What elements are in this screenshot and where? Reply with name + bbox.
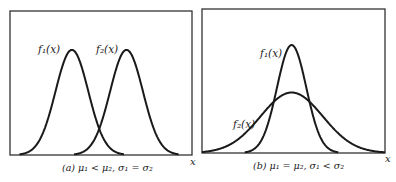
caption-b: (b) μ₁ = μ₂, σ₁ < σ₂: [253, 161, 344, 171]
panel-b: f₁(x) f₂(x) x (b) μ₁ = μ₂, σ₁ < σ₂: [0, 0, 396, 182]
x-axis-label: x: [385, 154, 391, 164]
label-f1: f₁(x): [260, 48, 282, 59]
label-f2: f₂(x): [233, 119, 255, 130]
curve-f1: [245, 45, 338, 152]
panel-b-frame: [202, 9, 385, 153]
curve-f2: [202, 93, 385, 153]
panel-b-plot: [0, 0, 396, 182]
